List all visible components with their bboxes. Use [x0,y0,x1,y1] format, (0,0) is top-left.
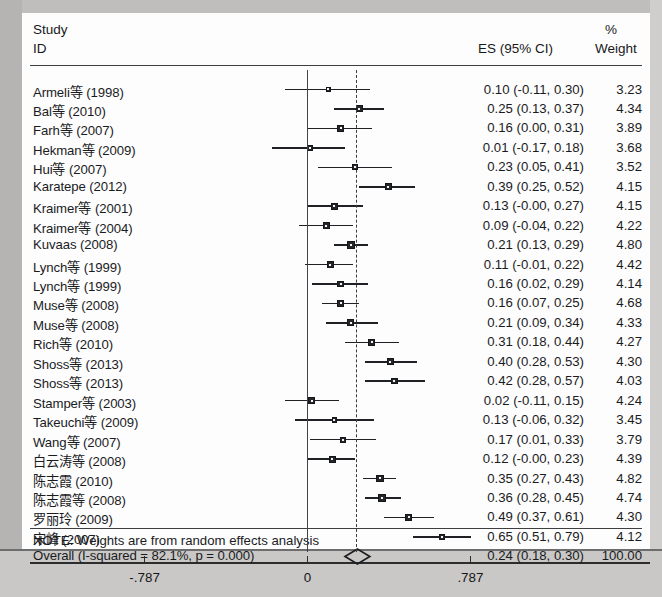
study-effect-size: 0.49 (0.37, 0.61) [452,509,584,524]
study-label: 宋峰 (2007) [33,529,100,548]
study-label: 白云涛等 (2008) [33,451,126,470]
study-effect-size: 0.39 (0.25, 0.52) [452,179,584,194]
study-label: Muse等 (2008) [33,315,119,334]
study-weight: 4.80 [588,237,642,252]
column-header-es: ES (95% CI) [478,41,553,56]
axis-tick [307,556,308,563]
study-label: Karatepe (2012) [33,179,127,194]
study-weight: 4.24 [588,393,642,408]
study-effect-size: 0.16 (0.00, 0.31) [452,120,584,135]
axis-tick [144,556,145,563]
study-label: Hekman等 (2009) [33,140,136,159]
axis-tick [470,556,471,563]
axis-tick-label: 0 [268,570,348,585]
overall-effect-size: 0.24 (0.18, 0.30) [452,548,584,563]
overall-weight: 100.00 [588,548,642,563]
study-label: 陈志霞等 (2008) [33,490,126,509]
study-label: 陈志霞 (2010) [33,471,113,490]
study-weight: 4.34 [588,101,642,116]
study-weight: 4.15 [588,198,642,213]
study-effect-size: 0.65 (0.51, 0.79) [452,529,584,544]
study-effect-size: 0.21 (0.09, 0.34) [452,315,584,330]
study-effect-size: 0.11 (-0.01, 0.22) [452,257,584,272]
study-weight: 3.79 [588,432,642,447]
study-effect-size: 0.13 (-0.00, 0.27) [452,198,584,213]
study-effect-size: 0.23 (0.05, 0.41) [452,159,584,174]
study-label: Muse等 (2008) [33,295,119,314]
column-header-study: Study [33,22,68,37]
study-label: Kraimer等 (2001) [33,198,132,217]
study-effect-size: 0.16 (0.07, 0.25) [452,295,584,310]
study-weight: 4.12 [588,529,642,544]
study-effect-size: 0.42 (0.28, 0.57) [452,373,584,388]
study-label: Lynch等 (1999) [33,276,121,295]
scan-edge-right [650,0,662,597]
study-effect-size: 0.12 (-0.00, 0.23) [452,451,584,466]
axis-tick-label: -.787 [105,570,185,585]
study-effect-size: 0.31 (0.18, 0.44) [452,334,584,349]
study-weight: 4.15 [588,179,642,194]
study-effect-size: 0.09 (-0.04, 0.22) [452,218,584,233]
study-label: Wang等 (2007) [33,432,121,451]
study-effect-size: 0.40 (0.28, 0.53) [452,354,584,369]
study-weight: 3.23 [588,82,642,97]
study-label: Rich等 (2010) [33,334,113,353]
study-label: Kraimer等 (2004) [33,218,132,237]
scan-edge-top [0,0,662,13]
study-weight: 4.27 [588,334,642,349]
study-weight: 4.82 [588,471,642,486]
study-label: Shoss等 (2013) [33,373,123,392]
column-header-weight: Weight [595,41,637,56]
study-effect-size: 0.02 (-0.11, 0.15) [452,393,584,408]
study-weight: 4.03 [588,373,642,388]
study-label: Kuvaas (2008) [33,237,117,252]
column-header-id: ID [33,41,47,56]
study-weight: 4.42 [588,257,642,272]
study-weight: 4.74 [588,490,642,505]
column-header-percent: % [605,22,617,37]
study-label: Hui等 (2007) [33,159,106,178]
study-effect-size: 0.35 (0.27, 0.43) [452,471,584,486]
study-weight: 4.68 [588,295,642,310]
scan-edge-left [0,0,22,597]
study-label: Lynch等 (1999) [33,257,121,276]
study-weight: 3.45 [588,412,642,427]
study-weight: 4.22 [588,218,642,233]
study-weight: 3.52 [588,159,642,174]
study-effect-size: 0.36 (0.28, 0.45) [452,490,584,505]
study-label: 罗丽玲 (2009) [33,509,113,528]
study-weight: 4.14 [588,276,642,291]
study-weight: 3.68 [588,140,642,155]
study-effect-size: 0.01 (-0.17, 0.18) [452,140,584,155]
study-effect-size: 0.10 (-0.11, 0.30) [452,82,584,97]
study-effect-size: 0.16 (0.02, 0.29) [452,276,584,291]
study-label: Takeuchi等 (2009) [33,412,138,431]
header-rule [30,65,642,66]
study-effect-size: 0.17 (0.01, 0.33) [452,432,584,447]
study-weight: 3.89 [588,120,642,135]
study-effect-size: 0.21 (0.13, 0.29) [452,237,584,252]
study-label: Armeli等 (1998) [33,82,124,101]
study-weight: 4.33 [588,315,642,330]
study-effect-size: 0.13 (-0.06, 0.32) [452,412,584,427]
study-weight: 4.39 [588,451,642,466]
study-label: Shoss等 (2013) [33,354,123,373]
study-label: Stamper等 (2003) [33,393,136,412]
study-weight: 4.30 [588,509,642,524]
study-weight: 4.30 [588,354,642,369]
study-label: Bal等 (2010) [33,101,106,120]
forest-plot-page: Study ID ES (95% CI) % Weight NOTE: Weig… [0,0,662,597]
study-label: Farh等 (2007) [33,120,114,139]
axis-tick-label: .787 [430,570,510,585]
study-effect-size: 0.25 (0.13, 0.37) [452,101,584,116]
